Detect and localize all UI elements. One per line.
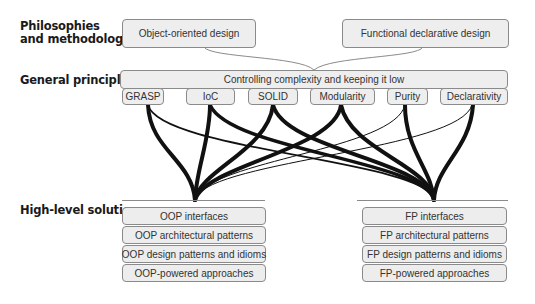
link-purity-oop (196, 105, 405, 198)
philosophy-functional-declarative-design: Functional declarative design (342, 19, 509, 48)
oop-separator-line (122, 200, 265, 201)
principle-purity: Purity (387, 88, 428, 105)
link-ood-to-bar (204, 47, 314, 70)
solution-oop-design-patterns: OOP design patterns and idioms (122, 245, 266, 263)
principles-bar: Controlling complexity and keeping it lo… (120, 70, 508, 89)
principle-modularity: Modularity (310, 88, 375, 105)
solution-oop-interfaces: OOP interfaces (122, 207, 266, 225)
principle-grasp: GRASP (122, 88, 164, 105)
philosophy-object-oriented-design: Object-oriented design (122, 19, 256, 48)
solution-fp-interfaces: FP interfaces (362, 207, 507, 225)
principle-solid: SOLID (248, 88, 298, 105)
solution-fp-architectural-patterns: FP architectural patterns (362, 226, 507, 244)
principle-declarativity: Declarativity (440, 88, 508, 105)
solution-oop-architectural-patterns: OOP architectural patterns (122, 226, 266, 244)
link-grasp-oop (148, 105, 195, 200)
principle-ioc: IoC (186, 88, 235, 105)
solution-oop-powered-approaches: OOP-powered approaches (122, 264, 266, 282)
solution-fp-powered-approaches: FP-powered approaches (362, 264, 507, 282)
link-declarativity-fp (434, 105, 473, 200)
solution-fp-design-patterns: FP design patterns and idioms (362, 245, 507, 263)
link-solid-fp (273, 105, 434, 200)
fp-separator-line (357, 200, 508, 201)
link-fdd-to-bar (314, 47, 423, 70)
